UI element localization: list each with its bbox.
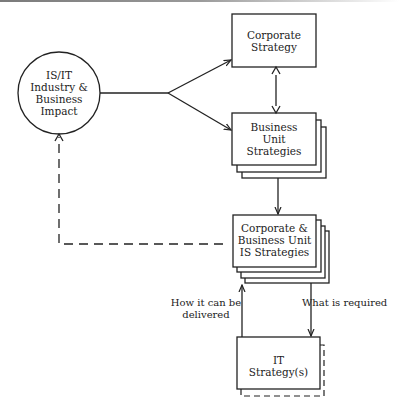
how-delivered-label: How it can be delivered <box>170 297 242 321</box>
impact-label-line: IS/IT <box>18 69 100 81</box>
bu-label-line: Strategies <box>232 145 316 157</box>
bu-label-line: Business <box>232 121 316 133</box>
arrow-to-business-unit <box>168 93 231 130</box>
is-label-line: Business Unit <box>233 234 316 246</box>
corporate-strategy-label: Corporate Strategy <box>232 29 316 53</box>
how-delivered-line: delivered <box>170 309 242 321</box>
how-delivered-line: How it can be <box>170 297 242 309</box>
it-label-line: Strategy(s) <box>237 366 320 378</box>
impact-label-line: Industry & <box>18 81 100 93</box>
is-label-line: Corporate & <box>233 222 316 234</box>
arrow-to-corporate <box>168 60 231 93</box>
is-label-line: IS Strategies <box>233 246 316 258</box>
what-required-label: What is required <box>302 297 387 309</box>
is-strategies-label: Corporate & Business Unit IS Strategies <box>233 222 316 258</box>
it-strategy-label: IT Strategy(s) <box>237 354 320 378</box>
impact-label-line: Impact <box>18 105 100 117</box>
bu-label-line: Unit <box>232 133 316 145</box>
arrowhead-up-corporate <box>272 67 280 74</box>
it-label-line: IT <box>237 354 320 366</box>
impact-label: IS/IT Industry & Business Impact <box>18 69 100 117</box>
corporate-label-line: Strategy <box>232 41 316 53</box>
impact-label-line: Business <box>18 93 100 105</box>
feedback-dashed-line <box>59 137 223 244</box>
arrowhead-down-bu <box>272 106 280 113</box>
diagram-canvas <box>0 0 399 418</box>
business-unit-label: Business Unit Strategies <box>232 121 316 157</box>
corporate-label-line: Corporate <box>232 29 316 41</box>
